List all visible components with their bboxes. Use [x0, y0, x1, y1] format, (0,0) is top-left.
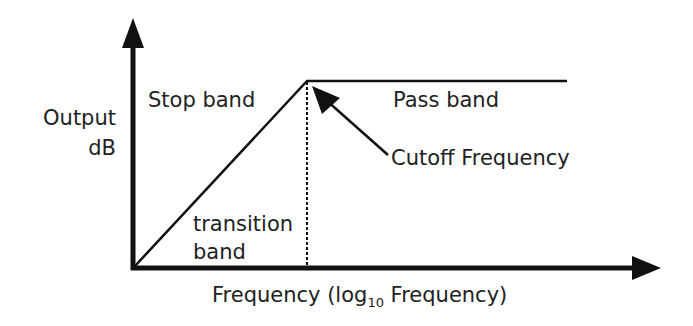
stop-band-label: Stop band — [148, 88, 255, 112]
cutoff-frequency-label: Cutoff Frequency — [391, 146, 570, 170]
transition-band-label-line1: transition — [193, 212, 293, 236]
x-axis-arrowhead-icon — [632, 256, 661, 280]
pass-band-label: Pass band — [393, 88, 499, 112]
y-axis-label-db: dB — [88, 136, 116, 160]
transition-band-label-line2: band — [193, 240, 246, 264]
x-axis-label-suffix: Frequency) — [384, 283, 507, 307]
y-axis-arrowhead-icon — [122, 18, 144, 48]
y-axis — [122, 18, 144, 270]
y-axis-label-output: Output — [43, 106, 116, 130]
x-axis-label: Frequency (log10 Frequency) — [212, 283, 507, 310]
x-axis-label-subscript: 10 — [367, 295, 384, 310]
filter-response-diagram: Output dB Stop band Pass band Cutoff Fre… — [0, 0, 693, 326]
cutoff-pointer-arrow — [312, 86, 388, 155]
x-axis-label-prefix: Frequency (log — [212, 283, 367, 307]
